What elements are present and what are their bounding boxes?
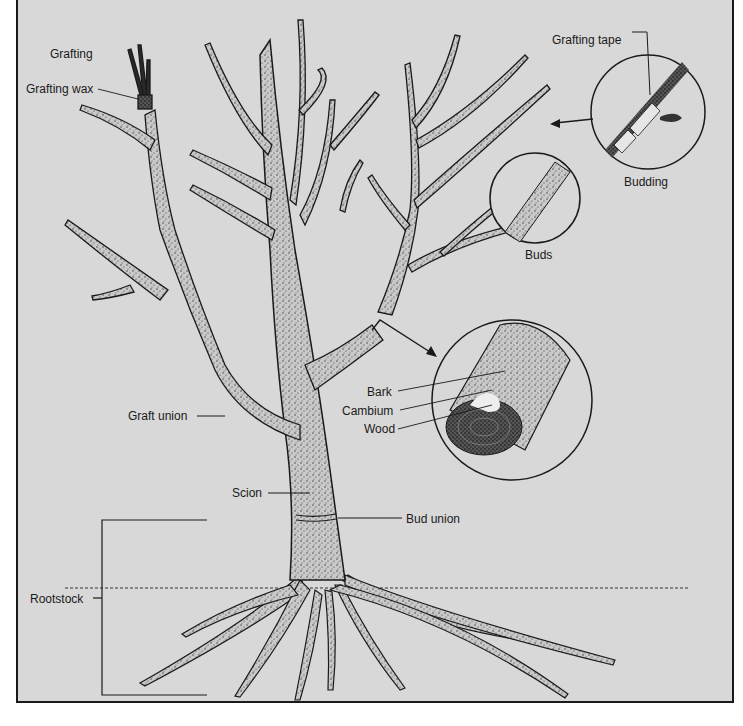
budding-inset	[550, 32, 705, 169]
label-grafting-tape: Grafting tape	[552, 33, 621, 47]
roots	[140, 575, 615, 700]
cross-section-inset	[398, 320, 592, 480]
label-cambium: Cambium	[342, 404, 393, 418]
label-rootstock: Rootstock	[30, 592, 83, 606]
label-grafting-wax: Grafting wax	[26, 82, 93, 96]
label-grafting: Grafting	[50, 47, 93, 61]
label-wood: Wood	[364, 422, 395, 436]
label-buds: Buds	[525, 248, 552, 262]
label-budding: Budding	[624, 175, 668, 189]
rootstock-bracket	[102, 520, 207, 695]
label-scion: Scion	[232, 486, 262, 500]
tree-illustration	[0, 0, 743, 726]
label-graft-union: Graft union	[128, 409, 187, 423]
label-bark: Bark	[367, 385, 392, 399]
grafting-wax-band	[138, 95, 152, 109]
label-bud-union: Bud union	[406, 512, 460, 526]
buds-inset	[490, 153, 580, 243]
grafting-wax-leader	[98, 89, 138, 99]
